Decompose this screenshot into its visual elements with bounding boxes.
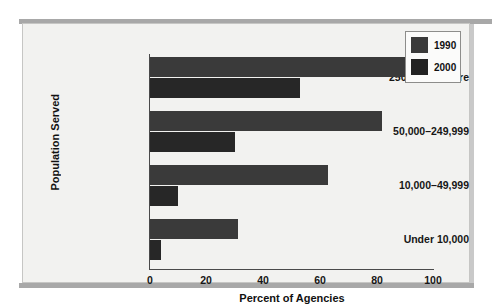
y-axis-category-label-3: Under 10,000 (357, 233, 469, 245)
x-tick-label-2: 40 (257, 274, 269, 286)
x-axis-line (150, 269, 434, 270)
legend-swatch-1990-icon (411, 37, 428, 53)
bar-1990-10000-49999 (150, 165, 328, 185)
y-axis-title: Population Served (49, 94, 61, 191)
bottom-rule-decoration (19, 283, 474, 288)
x-tick-label-5: 100 (424, 274, 442, 286)
bar-2000-250000-or-more (150, 78, 300, 98)
x-tick-label-0: 0 (147, 274, 153, 286)
chart-panel: 250,000 or more 50,000–249,999 10,000–49… (22, 23, 470, 283)
x-tick-label-1: 20 (200, 274, 212, 286)
bar-2000-50000-249999 (150, 132, 235, 152)
legend-swatch-2000-icon (411, 59, 428, 75)
legend-label-2000: 2000 (434, 62, 456, 73)
bar-1990-under-10000 (150, 219, 238, 239)
legend-item-2000: 2000 (411, 59, 456, 75)
x-tick-label-3: 60 (314, 274, 326, 286)
x-axis-title: Percent of Agencies (150, 292, 434, 304)
bar-1990-50000-249999 (150, 111, 382, 131)
legend-item-1990: 1990 (411, 37, 456, 53)
bar-2000-10000-49999 (150, 186, 178, 206)
bar-1990-250000-or-more (150, 57, 405, 77)
x-tick-label-4: 80 (371, 274, 383, 286)
chart-page: 250,000 or more 50,000–249,999 10,000–49… (0, 0, 492, 306)
legend-label-1990: 1990 (434, 40, 456, 51)
bar-2000-under-10000 (150, 240, 161, 260)
y-axis-category-label-2: 10,000–49,999 (357, 179, 469, 191)
chart-legend: 1990 2000 (405, 31, 461, 83)
